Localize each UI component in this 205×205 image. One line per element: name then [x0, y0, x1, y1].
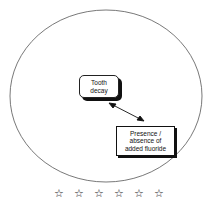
star-rating[interactable]: ☆ ☆ ☆ ☆ ☆ ☆	[54, 187, 164, 200]
node-tooth-decay: Tooth decay	[79, 75, 119, 98]
node-fluoride: Presence / absence of added fluoride	[116, 126, 175, 156]
node-label: Tooth decay	[84, 79, 114, 94]
diagram-canvas	[0, 0, 205, 205]
star-icon[interactable]: ☆	[134, 187, 144, 200]
star-icon[interactable]: ☆	[154, 187, 164, 200]
bidirectional-arrow	[109, 103, 144, 121]
node-label: Presence / absence of added fluoride	[122, 130, 170, 153]
star-icon[interactable]: ☆	[94, 187, 104, 200]
star-icon[interactable]: ☆	[74, 187, 84, 200]
star-icon[interactable]: ☆	[54, 187, 64, 200]
star-icon[interactable]: ☆	[114, 187, 124, 200]
